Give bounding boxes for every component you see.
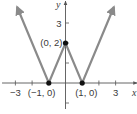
point-label: (−1, 0) — [28, 87, 56, 98]
x-tick-label: −3 — [10, 87, 21, 98]
labeled-points: (−1, 0)(0, 2)(1, 0) — [28, 37, 98, 98]
point-marker — [80, 80, 85, 85]
point-label: (1, 0) — [75, 87, 97, 98]
point-marker — [63, 40, 68, 45]
y-tick-label: 3 — [56, 18, 61, 29]
x-axis-label: x — [131, 87, 137, 98]
point-label: (0, 2) — [40, 37, 62, 48]
function-graph: (−1, 0)(0, 2)(1, 0) −333xy — [0, 0, 137, 114]
point-marker — [46, 80, 51, 85]
y-axis-label: y — [55, 0, 61, 10]
x-tick-label: 3 — [113, 87, 118, 98]
